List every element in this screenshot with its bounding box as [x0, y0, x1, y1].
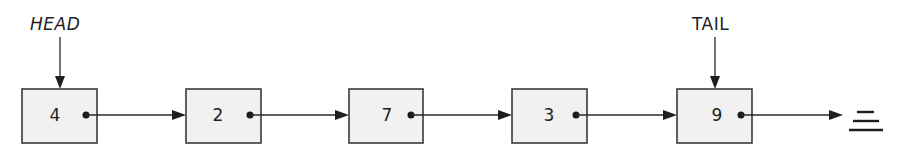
head-pointer: HEAD: [30, 14, 80, 89]
arrow-right-icon: [663, 110, 677, 120]
node-value: 3: [544, 105, 555, 125]
head-label: HEAD: [30, 14, 80, 34]
null-ground-icon: [849, 112, 883, 130]
tail-pointer: TAIL: [691, 14, 729, 89]
arrow-right-icon: [498, 110, 512, 120]
list-node: 9: [677, 89, 752, 143]
next-link: [250, 110, 349, 120]
list-node: 7: [349, 89, 423, 143]
arrow-right-icon: [335, 110, 349, 120]
linked-list-diagram: HEAD TAIL 4 2 7 3: [0, 0, 897, 158]
list-node: 3: [512, 89, 587, 143]
arrow-right-icon: [829, 110, 843, 120]
node-value: 7: [382, 105, 393, 125]
list-node: 2: [186, 89, 261, 143]
node-value: 9: [712, 105, 723, 125]
next-link: [576, 110, 677, 120]
arrow-right-icon: [172, 110, 186, 120]
tail-label: TAIL: [691, 14, 729, 34]
node-value: 4: [50, 105, 61, 125]
node-value: 2: [213, 105, 224, 125]
tail-arrow-icon: [710, 76, 720, 89]
list-node: 4: [22, 89, 97, 143]
head-arrow-icon: [55, 76, 65, 89]
next-link: [741, 110, 843, 120]
next-link: [411, 110, 512, 120]
next-link: [86, 110, 186, 120]
